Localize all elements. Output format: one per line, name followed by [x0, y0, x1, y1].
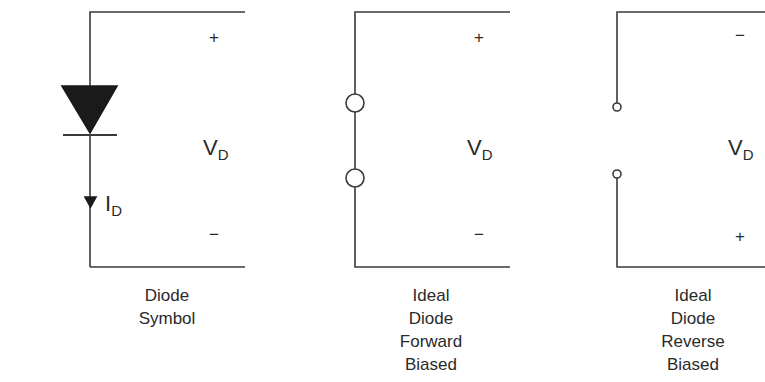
positive-terminal-sign: +: [474, 28, 484, 48]
diode-triangle-icon: [62, 86, 117, 133]
caption-line: Ideal: [400, 284, 462, 307]
voltage-symbol: V: [728, 135, 743, 160]
terminal-circle-icon: [613, 170, 621, 178]
voltage-symbol: V: [467, 135, 482, 160]
negative-terminal-sign: −: [474, 225, 484, 245]
caption-line: Forward: [400, 330, 462, 353]
wire: [90, 12, 245, 86]
caption-line: Diode: [139, 284, 196, 307]
voltage-label: VD: [728, 135, 754, 163]
caption-line: Ideal: [661, 284, 724, 307]
voltage-label: VD: [467, 135, 493, 163]
caption-line: Biased: [400, 353, 462, 376]
negative-terminal-sign: −: [209, 225, 219, 245]
terminal-circle-icon: [613, 103, 621, 111]
caption-reverse-biased: Ideal Diode Reverse Biased: [661, 284, 724, 376]
negative-terminal-sign: −: [735, 26, 745, 46]
caption-line: Reverse: [661, 330, 724, 353]
voltage-subscript: D: [218, 146, 229, 163]
current-subscript: D: [111, 202, 122, 219]
wire: [355, 187, 510, 267]
positive-terminal-sign: +: [735, 227, 745, 247]
voltage-subscript: D: [743, 146, 754, 163]
positive-terminal-sign: +: [209, 28, 219, 48]
caption-line: Symbol: [139, 307, 196, 330]
wire: [617, 178, 765, 267]
terminal-circle-icon: [346, 94, 364, 112]
terminal-circle-icon: [346, 169, 364, 187]
caption-diode-symbol: Diode Symbol: [139, 284, 196, 330]
voltage-subscript: D: [482, 146, 493, 163]
caption-line: Biased: [661, 353, 724, 376]
caption-line: Diode: [400, 307, 462, 330]
caption-forward-biased: Ideal Diode Forward Biased: [400, 284, 462, 376]
voltage-symbol: V: [203, 135, 218, 160]
caption-line: Diode: [661, 307, 724, 330]
wire: [355, 12, 510, 94]
current-arrow-icon: [85, 197, 96, 207]
current-label: ID: [105, 191, 122, 219]
voltage-label: VD: [203, 135, 229, 163]
